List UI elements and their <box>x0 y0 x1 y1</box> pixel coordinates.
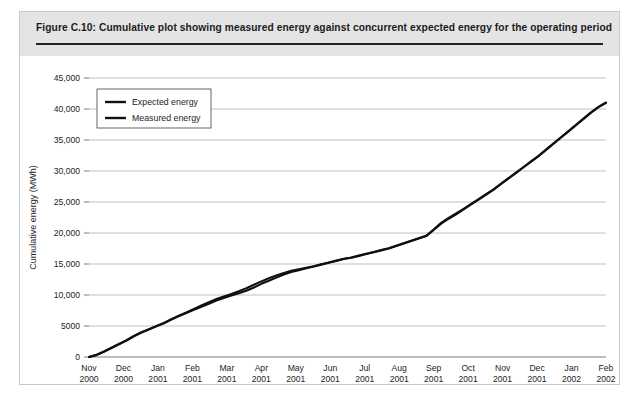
y-axis-title-text: Cumulative energy (MWh) <box>28 165 38 270</box>
legend-label-expected-energy: Expected energy <box>132 97 199 107</box>
x-axis-tick-labels: Nov2000Dec2000Jan2001Feb2001Mar2001Apr20… <box>79 363 615 384</box>
x-tick-year-label: 2001 <box>493 374 512 384</box>
x-tick-year-label: 2001 <box>217 374 236 384</box>
y-tick-label: 10,000 <box>54 290 81 300</box>
axis-ticks <box>84 78 89 357</box>
data-series <box>89 102 606 357</box>
x-tick-month-label: Mar <box>219 363 234 373</box>
x-tick-month-label: Nov <box>81 363 97 373</box>
chart-legend: Expected energyMeasured energy <box>97 89 211 128</box>
x-tick-year-label: 2001 <box>321 374 340 384</box>
figure-caption-band: Figure C.10: Cumulative plot showing mea… <box>20 12 619 56</box>
x-tick-year-label: 2001 <box>390 374 409 384</box>
x-tick-year-label: 2001 <box>459 374 478 384</box>
x-tick-year-label: 2001 <box>183 374 202 384</box>
x-tick-year-label: 2001 <box>252 374 271 384</box>
y-tick-label: 5000 <box>61 321 80 331</box>
x-tick-year-label: 2001 <box>355 374 374 384</box>
y-tick-label: 0 <box>75 352 80 362</box>
x-tick-year-label: 2001 <box>148 374 167 384</box>
x-tick-month-label: Jan <box>151 363 165 373</box>
x-tick-month-label: Dec <box>529 363 545 373</box>
x-tick-month-label: Feb <box>185 363 200 373</box>
x-tick-year-label: 2002 <box>562 374 581 384</box>
y-tick-label: 35,000 <box>54 135 81 145</box>
x-tick-year-label: 2000 <box>114 374 133 384</box>
y-tick-label: 15,000 <box>54 259 81 269</box>
x-tick-month-label: Sep <box>426 363 442 373</box>
legend-label-measured-energy: Measured energy <box>132 113 201 123</box>
y-axis-tick-labels: 0500010,00015,00020,00025,00030,00035,00… <box>54 73 81 362</box>
chart-plot-area: 0500010,00015,00020,00025,00030,00035,00… <box>20 56 621 385</box>
cumulative-energy-line-chart: 0500010,00015,00020,00025,00030,00035,00… <box>20 56 621 385</box>
x-tick-month-label: Aug <box>392 363 408 373</box>
x-tick-month-label: Dec <box>116 363 132 373</box>
x-tick-year-label: 2001 <box>424 374 443 384</box>
y-tick-label: 30,000 <box>54 166 81 176</box>
series-line-measured-energy <box>89 102 606 357</box>
x-tick-month-label: May <box>288 363 305 373</box>
y-axis-title: Cumulative energy (MWh) <box>28 165 38 270</box>
x-tick-month-label: Feb <box>599 363 614 373</box>
x-tick-year-label: 2000 <box>79 374 98 384</box>
y-tick-label: 40,000 <box>54 104 81 114</box>
series-line-expected-energy <box>89 103 606 357</box>
figure-container: Figure C.10: Cumulative plot showing mea… <box>19 11 620 385</box>
y-tick-label: 20,000 <box>54 228 81 238</box>
figure-caption: Figure C.10: Cumulative plot showing mea… <box>36 22 609 33</box>
y-tick-label: 45,000 <box>54 73 81 83</box>
x-tick-year-label: 2002 <box>596 374 615 384</box>
x-tick-month-label: Jul <box>359 363 370 373</box>
caption-divider <box>36 43 603 45</box>
x-tick-month-label: Nov <box>495 363 511 373</box>
y-tick-label: 25,000 <box>54 197 81 207</box>
x-tick-month-label: Oct <box>461 363 475 373</box>
x-tick-year-label: 2001 <box>528 374 547 384</box>
x-tick-month-label: Jun <box>323 363 337 373</box>
x-tick-month-label: Jan <box>565 363 579 373</box>
x-tick-month-label: Apr <box>255 363 269 373</box>
x-tick-year-label: 2001 <box>286 374 305 384</box>
